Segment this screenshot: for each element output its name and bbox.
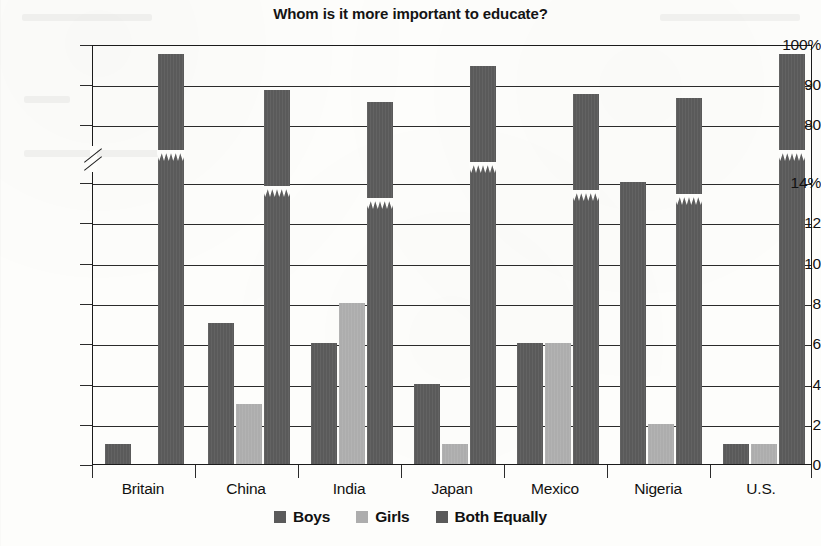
y-axis-label-4: 4 <box>745 376 821 394</box>
y-axis-label-12: 12 <box>745 214 821 232</box>
y-tick-6 <box>80 344 92 345</box>
bar-nigeria-girls <box>648 424 674 464</box>
y-tick-2 <box>80 425 92 426</box>
chart-page: Whom is it more important to educate? <box>0 0 821 546</box>
y-axis-label-80: 80 <box>745 116 821 134</box>
bar-mexico-both-equally <box>573 94 599 464</box>
bar-mexico-girls <box>545 343 571 464</box>
y-tick-10 <box>80 264 92 265</box>
x-tick-separator <box>195 465 196 478</box>
y-axis-label-100: 100% <box>745 36 821 54</box>
bar-china-girls <box>236 404 262 464</box>
bar-britain-boys <box>105 444 131 464</box>
legend-item-both-equally: Both Equally <box>436 508 547 526</box>
x-tick-separator <box>607 465 608 478</box>
bar-japan-girls <box>442 444 468 464</box>
y-axis-label-6: 6 <box>745 335 821 353</box>
bar-india-both-equally <box>367 102 393 464</box>
bar-india-girls <box>339 303 365 464</box>
gridline-12 <box>93 224 811 225</box>
x-tick-separator <box>92 465 93 478</box>
legend-item-girls: Girls <box>356 508 409 526</box>
gridline-10 <box>93 265 811 266</box>
x-axis-label-india: India <box>333 480 366 498</box>
background-ghost-text <box>24 96 70 103</box>
gridline-4 <box>93 386 811 387</box>
y-axis-label-8: 8 <box>745 295 821 313</box>
legend-item-boys: Boys <box>274 508 330 526</box>
bar-nigeria-boys <box>620 182 646 464</box>
bar-britain-both-equally <box>158 54 184 464</box>
y-tick-4 <box>80 385 92 386</box>
y-axis-label-14: 14% <box>745 174 821 192</box>
y-tick-0 <box>80 465 92 466</box>
legend-swatch-icon-both-equally <box>436 511 448 523</box>
y-tick-14 <box>80 183 92 184</box>
gridline-80 <box>93 126 811 127</box>
x-tick-separator <box>710 465 711 478</box>
plot-area <box>92 45 812 465</box>
legend-swatch-icon-boys <box>274 511 286 523</box>
x-tick-separator <box>811 465 812 478</box>
axis-break-icon <box>80 146 106 172</box>
gridline-90 <box>93 86 811 87</box>
y-axis-label-10: 10 <box>745 255 821 273</box>
x-tick-separator <box>401 465 402 478</box>
y-axis-label-2: 2 <box>745 416 821 434</box>
gridline-2 <box>93 426 811 427</box>
y-tick-100 <box>80 45 92 46</box>
x-axis-label-us: U.S. <box>746 480 775 498</box>
y-tick-90 <box>80 85 92 86</box>
bar-nigeria-both-equally <box>676 98 702 464</box>
bar-japan-boys <box>414 384 440 464</box>
y-tick-8 <box>80 304 92 305</box>
x-tick-separator <box>298 465 299 478</box>
gridline-14 <box>93 184 811 185</box>
gridline-6 <box>93 345 811 346</box>
chart-legend: Boys Girls Both Equally <box>0 508 821 526</box>
y-tick-12 <box>80 223 92 224</box>
legend-label-girls: Girls <box>375 508 409 526</box>
x-axis-label-britain: Britain <box>122 480 165 498</box>
y-axis-spine <box>92 45 93 478</box>
gridline-8 <box>93 305 811 306</box>
legend-swatch-icon-girls <box>356 511 368 523</box>
y-tick-80 <box>80 125 92 126</box>
legend-label-both-equally: Both Equally <box>455 508 547 526</box>
x-axis-label-nigeria: Nigeria <box>634 480 682 498</box>
bar-china-both-equally <box>264 90 290 464</box>
chart-title: Whom is it more important to educate? <box>0 5 821 22</box>
bar-china-boys <box>208 323 234 464</box>
bar-mexico-boys <box>517 343 543 464</box>
y-axis-label-90: 90 <box>745 76 821 94</box>
bar-india-boys <box>311 343 337 464</box>
x-tick-separator <box>504 465 505 478</box>
bar-japan-both-equally <box>470 66 496 464</box>
x-axis-label-china: China <box>226 480 266 498</box>
x-axis-label-mexico: Mexico <box>531 480 579 498</box>
legend-label-boys: Boys <box>293 508 330 526</box>
x-axis-label-japan: Japan <box>431 480 472 498</box>
